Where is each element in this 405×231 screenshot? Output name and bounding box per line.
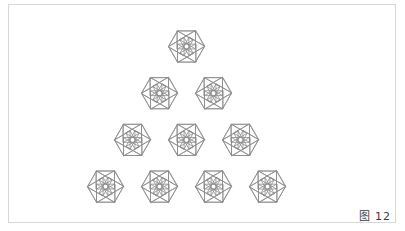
- hexagon: [250, 171, 286, 202]
- hexagon: [169, 124, 205, 155]
- hexagon: [115, 124, 151, 155]
- hexagon: [223, 124, 259, 155]
- tiling-diagram: [0, 0, 405, 231]
- hexagon: [88, 171, 124, 202]
- hexagon: [196, 78, 232, 109]
- figure-caption: 图 12: [359, 207, 392, 223]
- hexagon: [169, 31, 205, 62]
- hexagon: [142, 78, 178, 109]
- hexagon: [142, 171, 178, 202]
- hexagon: [196, 171, 232, 202]
- tiling-polygons: [88, 31, 286, 202]
